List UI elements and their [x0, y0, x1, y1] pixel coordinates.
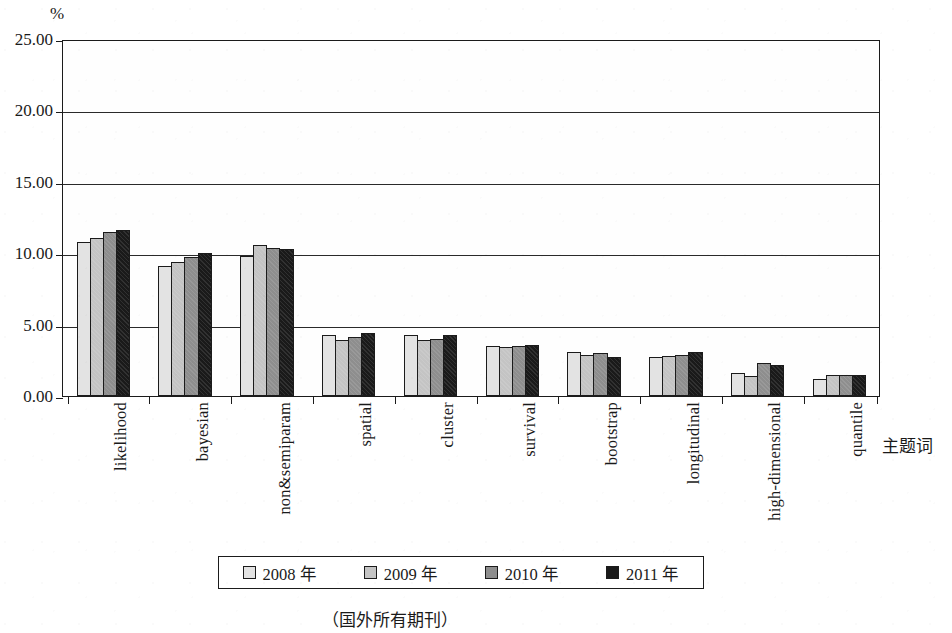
bar [404, 335, 418, 396]
bar [499, 347, 513, 396]
bar [486, 346, 500, 396]
y-axis-tick-label: 20.00 [0, 101, 62, 121]
bar [607, 357, 621, 396]
bar [675, 355, 689, 396]
chart-plot-area [62, 40, 880, 397]
bar [731, 373, 745, 396]
bar-group [322, 41, 379, 396]
bar [348, 337, 362, 396]
bar [253, 245, 267, 396]
x-axis-title: 主题词 [882, 432, 933, 457]
bar-group [649, 41, 706, 396]
legend-swatch-icon [485, 566, 498, 579]
x-axis-category-label: likelihood [111, 402, 131, 471]
bar-group [240, 41, 297, 396]
bar [266, 248, 280, 397]
bar [593, 353, 607, 396]
bar-group [567, 41, 624, 396]
legend-item[interactable]: 2009 年 [364, 561, 438, 585]
bar [77, 242, 91, 396]
bar [813, 379, 827, 396]
bar [116, 230, 130, 396]
x-axis-category-labels: likelihoodbayesiannon&semiparamspatialcl… [62, 402, 880, 552]
y-axis-tick-label: 10.00 [0, 244, 62, 264]
legend-item[interactable]: 2010 年 [485, 561, 559, 585]
bar-group [731, 41, 788, 396]
bar [770, 365, 784, 396]
bar [688, 352, 702, 396]
y-axis-tick-label: 15.00 [0, 173, 62, 193]
bar [279, 249, 293, 396]
bar [184, 257, 198, 396]
bar [335, 340, 349, 396]
y-axis-unit-label: % [50, 4, 65, 24]
bar [826, 375, 840, 396]
x-axis-category-label: quantile [847, 402, 867, 457]
bar [240, 256, 254, 396]
legend-swatch-icon [243, 566, 256, 579]
bar [322, 335, 336, 396]
bar [512, 346, 526, 396]
legend-swatch-icon [606, 566, 619, 579]
bar [158, 266, 172, 396]
bar [580, 355, 594, 396]
bar-series-layer [63, 41, 879, 396]
bar [171, 262, 185, 396]
bar [567, 352, 581, 396]
bar [852, 375, 866, 396]
y-axis-tick-label: 0.00 [0, 387, 62, 407]
x-axis-category-label: cluster [438, 402, 458, 447]
bar [90, 238, 104, 397]
bar-group [77, 41, 134, 396]
bar [662, 356, 676, 396]
bar [744, 376, 758, 396]
bar-group [158, 41, 215, 396]
legend-item[interactable]: 2011 年 [606, 561, 680, 585]
bar [361, 333, 375, 396]
legend-label: 2010 年 [505, 561, 559, 585]
bar [525, 345, 539, 396]
bar [198, 253, 212, 396]
bar [443, 335, 457, 396]
x-axis-category-label: bootstrap [602, 402, 622, 465]
y-axis-tick-label: 5.00 [0, 316, 62, 336]
legend-label: 2011 年 [626, 561, 680, 585]
bar [757, 363, 771, 396]
bar [839, 375, 853, 396]
legend-label: 2008 年 [263, 561, 317, 585]
x-axis-category-label: spatial [356, 402, 376, 446]
bar [649, 357, 663, 396]
x-axis-category-label: high-dimensional [765, 402, 785, 521]
bar [103, 232, 117, 396]
x-axis-category-label: survival [520, 402, 540, 457]
chart-legend: 2008 年2009 年2010 年2011 年 [218, 556, 704, 589]
legend-label: 2009 年 [384, 561, 438, 585]
bar-group [486, 41, 543, 396]
y-axis-tick-label: 25.00 [0, 30, 62, 50]
x-axis-category-label: bayesian [193, 402, 213, 461]
x-axis-category-label: longitudinal [684, 402, 704, 484]
legend-swatch-icon [364, 566, 377, 579]
bar-group [813, 41, 870, 396]
legend-item[interactable]: 2008 年 [243, 561, 317, 585]
x-axis-category-label: non&semiparam [275, 402, 295, 515]
bar [430, 339, 444, 396]
bar-group [404, 41, 461, 396]
figure-caption: （国外所有期刊） [0, 606, 780, 631]
bar [417, 340, 431, 396]
